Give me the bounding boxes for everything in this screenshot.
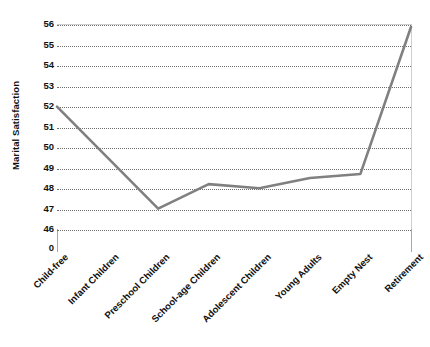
x-axis-tick-labels: Child-freeInfant ChildrenPreschool Child… — [0, 252, 430, 347]
y-tick-label: 46 — [26, 224, 54, 234]
y-tick-label: 47 — [26, 204, 54, 214]
data-series-svg — [57, 25, 411, 229]
x-tick-label: Infant Children — [33, 252, 120, 339]
y-tick-label: 50 — [26, 142, 54, 152]
y-tick-label: 55 — [26, 40, 54, 50]
marital-satisfaction-line — [57, 27, 411, 209]
y-axis-tick-labels: 04647484950515253545556 — [26, 0, 54, 250]
y-tick-label: 53 — [26, 81, 54, 91]
y-tick-label: 52 — [26, 101, 54, 111]
marital-satisfaction-line-chart: Marital Satisfaction 0464748495051525354… — [0, 0, 430, 347]
y-tick-label: 49 — [26, 163, 54, 173]
y-tick-label: 51 — [26, 122, 54, 132]
y-tick-label: 48 — [26, 183, 54, 193]
y-tick-label: 54 — [26, 60, 54, 70]
y-axis-title-text: Marital Satisfaction — [11, 80, 22, 169]
gridline — [57, 230, 411, 231]
y-tick-label: 56 — [26, 19, 54, 29]
x-axis-right-tick — [411, 229, 412, 252]
plot-area — [57, 24, 412, 229]
x-tick-label: Child-free — [18, 252, 69, 303]
